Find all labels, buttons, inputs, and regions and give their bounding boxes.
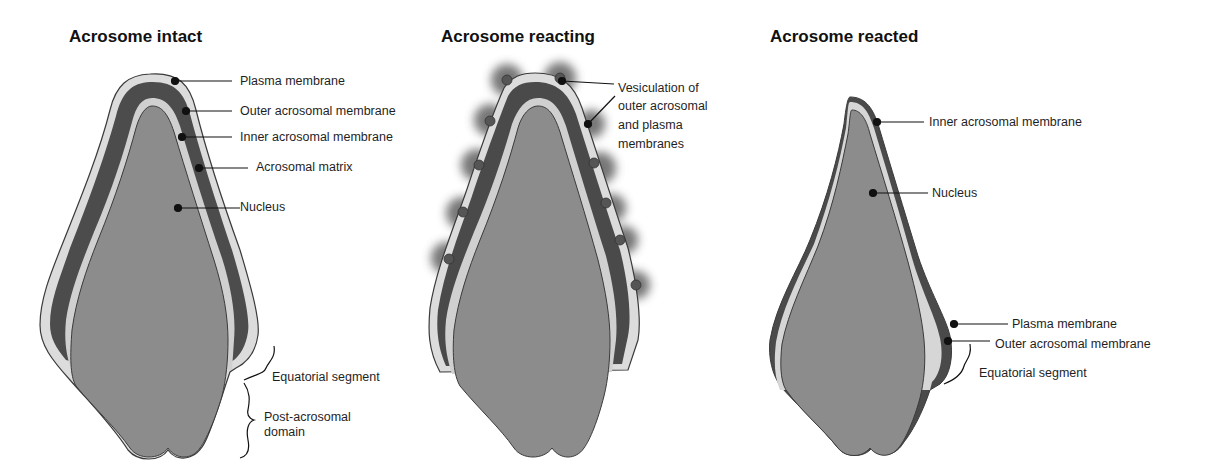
label-inner-acrosomal-membrane: Inner acrosomal membrane (240, 130, 393, 145)
label-equatorial-segment: Equatorial segment (272, 370, 380, 385)
label-inner-acrosomal-membrane-reacted: Inner acrosomal membrane (929, 115, 1082, 130)
label-post-acrosomal-line1: Post-acrosomal (264, 410, 351, 425)
sperm-head-reacting (429, 62, 650, 457)
label-vesiculation-line4: membranes (618, 137, 684, 152)
label-plasma-membrane-reacted: Plasma membrane (1012, 317, 1117, 332)
sperm-head-reacted (770, 97, 952, 456)
label-post-acrosomal-line2: domain (264, 425, 305, 440)
label-acrosomal-matrix: Acrosomal matrix (256, 160, 353, 175)
label-plasma-membrane: Plasma membrane (240, 74, 345, 89)
label-vesiculation-line2: outer acrosomal (618, 99, 708, 114)
label-vesiculation-line1: Vesiculation of (618, 81, 699, 96)
panel-title-reacting: Acrosome reacting (441, 27, 595, 47)
label-nucleus-reacted: Nucleus (932, 186, 977, 201)
label-nucleus: Nucleus (240, 200, 285, 215)
panel-title-intact: Acrosome intact (69, 27, 202, 47)
label-outer-acrosomal-membrane: Outer acrosomal membrane (240, 104, 396, 119)
label-vesiculation-line3: and plasma (618, 118, 683, 133)
sperm-head-intact (40, 70, 265, 465)
acrosome-diagram (0, 0, 1222, 469)
label-equatorial-segment-reacted: Equatorial segment (979, 366, 1087, 381)
label-outer-acrosomal-membrane-reacted: Outer acrosomal membrane (995, 337, 1151, 352)
panel-title-reacted: Acrosome reacted (770, 27, 918, 47)
